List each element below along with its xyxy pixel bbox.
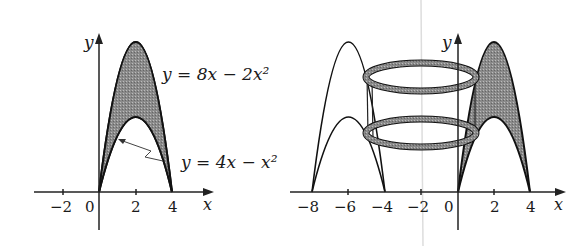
tick-label: 4 [526, 198, 536, 216]
tick-label: −6 [334, 198, 356, 216]
tick-label: 4 [168, 198, 178, 216]
equation-outer: y = 8x − 2x² [161, 64, 270, 84]
x-axis-label: x [554, 195, 563, 214]
x-axis-label: x [203, 195, 212, 214]
tick-label: −2 [407, 198, 429, 216]
tick-label: −2 [50, 198, 72, 216]
equation-inner: y = 4x − x² [180, 152, 278, 172]
tick-label: −8 [297, 198, 319, 216]
tick-label: 2 [490, 198, 500, 216]
y-axis-arrow-icon [454, 33, 462, 44]
y-axis-arrow-icon [95, 33, 103, 44]
tick-label: −4 [371, 198, 393, 216]
tick-label: 0 [85, 198, 95, 216]
y-axis-label: y [83, 32, 94, 52]
figure: y x −2 0 2 4 y = 8x − 2x² y = 4x − x² [0, 0, 581, 246]
washer-lower [366, 119, 476, 147]
tick-label: 2 [131, 198, 141, 216]
left-graph: y x −2 0 2 4 y = 8x − 2x² y = 4x − x² [34, 32, 278, 230]
y-axis-label: y [441, 32, 452, 52]
tick-label: 0 [444, 198, 454, 216]
right-graph: y x −8 −6 −4 −2 0 2 4 [290, 0, 566, 246]
